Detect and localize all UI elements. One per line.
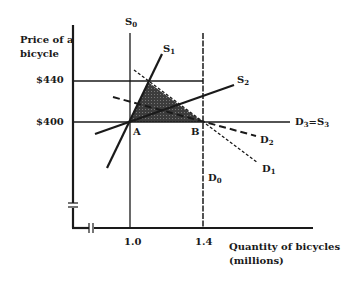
- s0-label: S0: [125, 16, 137, 30]
- d2-text: D: [260, 134, 269, 145]
- x-axis-label-line2: (millions): [229, 255, 340, 266]
- s2-sub: 2: [244, 78, 249, 87]
- s3-text: =S: [309, 116, 325, 127]
- d3-text: D: [295, 116, 304, 127]
- tick-440: $440: [36, 74, 64, 85]
- d0-sub: 0: [217, 176, 222, 185]
- x-axis-label-line1: Quantity of bicycles: [229, 241, 340, 252]
- point-b-label: B: [191, 126, 199, 137]
- d1-label: D1: [262, 163, 276, 177]
- point-a-label: A: [133, 126, 141, 137]
- s1-sub: 1: [170, 47, 175, 56]
- d2-sub: 2: [269, 138, 274, 147]
- d0-label: D0: [208, 172, 222, 186]
- s0-sub: 0: [132, 20, 137, 29]
- y-axis-label-line1: Price of a: [20, 34, 73, 45]
- s1-label: S1: [163, 43, 175, 57]
- s2-label: S2: [237, 74, 249, 88]
- d1-sub: 1: [271, 167, 276, 176]
- shaded-triangle: [130, 82, 203, 122]
- d3-s3-label: D3=S3: [295, 116, 329, 130]
- y-axis-label-line2: bicycle: [20, 48, 73, 59]
- x-axis-label: Quantity of bicycles (millions): [229, 241, 340, 266]
- tick-1-4: 1.4: [195, 236, 212, 247]
- tick-1-0: 1.0: [124, 236, 141, 247]
- x-axis: [72, 223, 313, 233]
- y-axis-label: Price of a bicycle: [20, 34, 73, 59]
- s3-sub: 3: [324, 120, 329, 129]
- d2-label: D2: [260, 134, 274, 148]
- tick-400: $400: [36, 116, 64, 127]
- d0-text: D: [208, 172, 217, 183]
- d1-text: D: [262, 163, 271, 174]
